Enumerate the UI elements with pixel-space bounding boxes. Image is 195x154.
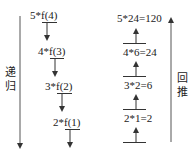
backtrack-step-2: 4*6=24	[123, 46, 157, 58]
recursion-step-4: 2*f(1)	[53, 116, 81, 128]
backtrack-step-4: 2*1=2	[124, 112, 152, 124]
backtrack-step-3: 3*2=6	[124, 79, 152, 91]
diagram-lines	[0, 0, 195, 154]
recursion-label-1: 递	[4, 66, 16, 79]
backtrack-step-1: 5*24=120	[117, 12, 162, 24]
recursion-label-2: 归	[4, 80, 16, 93]
backtrack-label-2: 推	[176, 86, 188, 99]
recursion-step-1: 5*f(4)	[30, 9, 58, 21]
backtrack-label-1: 回	[176, 72, 188, 85]
recursion-step-3: 3*f(2)	[45, 80, 73, 92]
recursion-step-2: 4*f(3)	[38, 45, 66, 57]
